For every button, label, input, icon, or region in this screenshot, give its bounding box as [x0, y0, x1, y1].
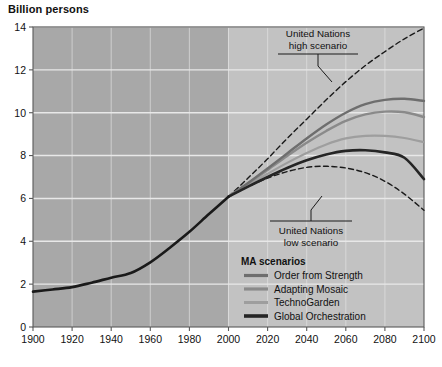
annotation-un-high-line1: United Nations — [286, 28, 350, 39]
y-tick-label: 2 — [20, 278, 26, 290]
y-tick-label: 4 — [20, 235, 26, 247]
plot-area-wrapper: 0246810121419001920194019601980200020202… — [0, 0, 442, 367]
x-tick-label: 2020 — [256, 333, 280, 345]
x-tick-label: 2060 — [334, 333, 358, 345]
legend-label: Adapting Mosaic — [274, 284, 348, 295]
annotation-un-low-line2: low scenario — [284, 237, 339, 248]
annotation-un-low-line1: United Nations — [279, 225, 343, 236]
population-projection-chart: 0246810121419001920194019601980200020202… — [0, 0, 442, 367]
x-tick-label: 1980 — [178, 333, 202, 345]
x-tick-label: 1940 — [100, 333, 124, 345]
legend-label: Order from Strength — [274, 270, 363, 281]
y-tick-label: 0 — [20, 321, 26, 333]
x-tick-label: 1960 — [139, 333, 163, 345]
chart-figure: Billion persons 024681012141900192019401… — [0, 0, 442, 367]
x-tick-label: 1920 — [60, 333, 84, 345]
y-tick-label: 6 — [20, 192, 26, 204]
x-tick-label: 2040 — [295, 333, 319, 345]
y-tick-label: 8 — [20, 149, 26, 161]
plot-background-historical — [33, 27, 229, 327]
x-tick-label: 2000 — [217, 333, 241, 345]
y-tick-label: 10 — [14, 107, 26, 119]
x-tick-label: 1900 — [21, 333, 45, 345]
y-tick-label: 14 — [14, 21, 26, 33]
x-tick-label: 2100 — [412, 333, 436, 345]
annotation-un-high-line2: high scenario — [289, 40, 348, 51]
legend-label: Global Orchestration — [274, 311, 366, 322]
legend-title: MA scenarios — [241, 256, 306, 267]
x-tick-label: 2080 — [373, 333, 397, 345]
legend-label: TechnoGarden — [274, 297, 340, 308]
y-tick-label: 12 — [14, 64, 26, 76]
